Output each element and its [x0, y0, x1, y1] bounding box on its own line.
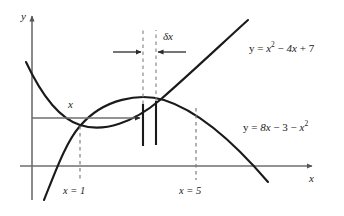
x-distance-label: x [68, 99, 73, 110]
area-between-curves-figure: y x y = x2 − 4x + 7 y = 8x − 3 − x2 x = … [0, 0, 344, 216]
y-axis-label: y [21, 11, 26, 22]
upward-parabola-label: y = x2 − 4x + 7 [249, 43, 314, 54]
x-axis-label: x [309, 173, 314, 184]
upward-parabola-equation-text: y [249, 42, 255, 54]
downward-parabola-label: y = 8x − 3 − x2 [243, 122, 308, 133]
tick-label-x-equals-1: x = 1 [63, 186, 85, 197]
delta-x-label: δx [163, 31, 173, 42]
upward-parabola-curve [26, 20, 248, 128]
tick-label-x-equals-5: x = 5 [179, 186, 201, 197]
downward-parabola-equation-text: y [243, 121, 249, 133]
